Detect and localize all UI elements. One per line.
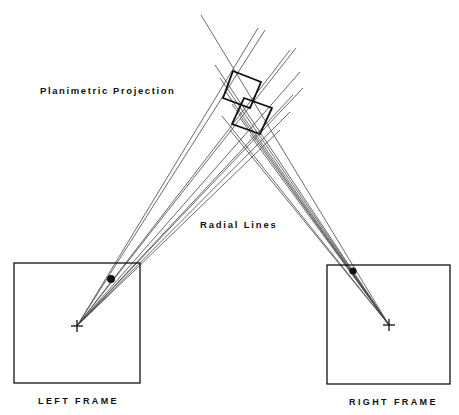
right-principal-point-crosshair-icon (383, 319, 395, 331)
left-image-point-marker (107, 275, 115, 283)
radial-lines-label: Radial Lines (200, 219, 278, 230)
left-frame-label: LEFT FRAME (38, 396, 119, 406)
radial-triangulation-diagram (0, 0, 459, 415)
right-image-point-marker (349, 267, 356, 274)
planimetric-projection-label: Planimetric Projection (40, 85, 176, 96)
radial-lines-right (201, 15, 389, 325)
right-frame-label: RIGHT FRAME (349, 397, 438, 407)
